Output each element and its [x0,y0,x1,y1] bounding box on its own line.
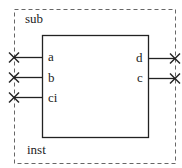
port-label-b: b [48,70,55,85]
instance-block[interactable] [43,36,149,138]
port-b[interactable]: b [9,70,55,85]
schematic-canvas: sub inst a b ci d [0,0,182,168]
port-a[interactable]: a [9,49,54,64]
port-label-a: a [48,49,54,64]
subsystem-label: sub [25,11,43,26]
port-ci[interactable]: ci [9,90,58,105]
port-label-d: d [136,50,143,65]
port-label-c: c [137,70,143,85]
instance-label: inst [27,142,46,157]
port-label-ci: ci [48,90,58,105]
